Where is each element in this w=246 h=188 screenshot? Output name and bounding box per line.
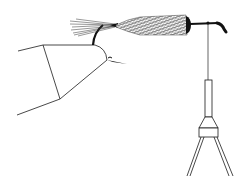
- bobbin: [187, 80, 233, 176]
- fly-tying-illustration: fly tying: hook clamped in vise jaw with…: [0, 0, 246, 188]
- tail: [70, 19, 118, 36]
- vise-jaw: [17, 45, 107, 115]
- drawing-canvas: [0, 0, 246, 188]
- body: [116, 15, 187, 35]
- head: [186, 16, 191, 34]
